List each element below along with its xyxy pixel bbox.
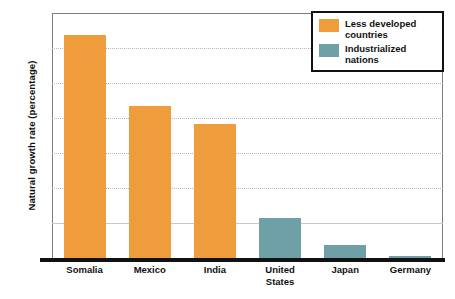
- bar-japan[interactable]: [324, 245, 366, 258]
- bar-somalia[interactable]: [64, 35, 106, 258]
- bar-slot: [259, 13, 301, 258]
- legend-item[interactable]: Industrialized nations: [319, 43, 437, 65]
- x-axis-tick-label: Japan: [313, 264, 378, 276]
- bar-united-states[interactable]: [259, 218, 301, 258]
- bar-chart: Natural growth rate (percentage) 3.53.02…: [0, 0, 455, 299]
- legend-item[interactable]: Less developed countries: [319, 18, 437, 40]
- x-axis-tick-label: Germany: [378, 264, 443, 276]
- x-axis-tick-label: Mexico: [117, 264, 182, 276]
- y-axis-title: Natural growth rate (percentage): [26, 21, 37, 251]
- x-axis-tick-label: Somalia: [52, 264, 117, 276]
- bar-india[interactable]: [194, 124, 236, 258]
- legend-item-label: Industrialized nations: [345, 43, 437, 65]
- legend-item-label: Less developed countries: [345, 18, 437, 40]
- x-axis-baseline: [40, 258, 445, 262]
- legend-swatch-icon: [319, 19, 339, 32]
- x-axis-tick-label: UnitedStates: [248, 264, 313, 287]
- bar-mexico[interactable]: [129, 106, 171, 258]
- x-axis-tick-labels: SomaliaMexicoIndiaUnitedStatesJapanGerma…: [52, 264, 443, 296]
- bar-slot: [64, 13, 106, 258]
- bar-slot: [194, 13, 236, 258]
- x-axis-tick-label: India: [182, 264, 247, 276]
- legend: Less developed countries Industrialized …: [311, 11, 444, 72]
- legend-swatch-icon: [319, 44, 339, 57]
- bar-slot: [129, 13, 171, 258]
